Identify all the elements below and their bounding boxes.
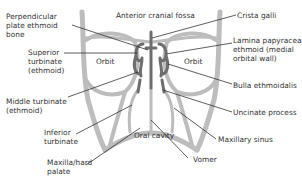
label-inferior-turbinate: Inferior turbinate <box>44 128 78 146</box>
label-vomer: Vomer <box>193 155 217 164</box>
label-anterior-cranial-fossa: Anterior cranial fossa <box>116 11 195 20</box>
label-superior-turbinate: Superior turbinate (ethmoid) <box>28 48 64 75</box>
label-maxillary-sinus: Maxillary sinus <box>218 135 273 144</box>
label-orbit-left: Orbit <box>96 57 115 66</box>
label-perpendicular-plate: Perpendicular plate ethmoid bone <box>6 12 58 39</box>
nasal-cavity-diagram: Perpendicular plate ethmoid bone Anterio… <box>0 0 302 189</box>
label-crista-galli: Crista galli <box>237 11 276 20</box>
label-bulla-ethmoidalis: Bulla ethmoidalis <box>233 81 297 90</box>
label-lamina-papyracea: Lamina papyracea ethmoid (medial orbital… <box>233 36 301 63</box>
label-orbit-right: Orbit <box>184 57 203 66</box>
label-maxilla-hard-palate: Maxilla/hard palate <box>47 158 92 176</box>
label-oral-cavity: Oral cavity <box>134 131 174 140</box>
label-uncinate-process: Uncinate process <box>233 108 297 117</box>
label-middle-turbinate: Middle turbinate (ethmoid) <box>6 97 67 115</box>
